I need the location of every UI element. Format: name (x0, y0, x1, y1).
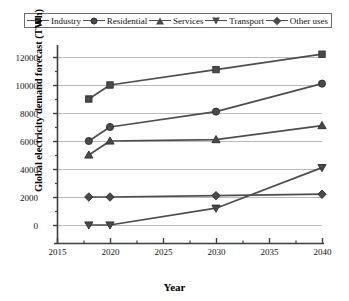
series-line-services (89, 126, 322, 155)
data-point-circle (106, 123, 113, 130)
data-point-diamond (106, 193, 114, 201)
data-point-square (107, 82, 113, 88)
data-point-square (86, 96, 92, 102)
data-point-square (213, 66, 219, 72)
data-point-diamond (85, 193, 93, 201)
data-point-circle (318, 80, 325, 87)
data-point-circle (85, 137, 92, 144)
series-line-residential (89, 84, 322, 141)
data-point-triangle (85, 151, 93, 158)
data-point-triangle (318, 122, 326, 129)
data-point-circle (212, 108, 219, 115)
data-point-diamond (212, 191, 220, 199)
data-point-square (319, 51, 325, 57)
plot-area (0, 0, 349, 301)
chart-container: Industry Residential Services Transport … (0, 0, 349, 301)
series-line-other-uses (89, 194, 322, 197)
